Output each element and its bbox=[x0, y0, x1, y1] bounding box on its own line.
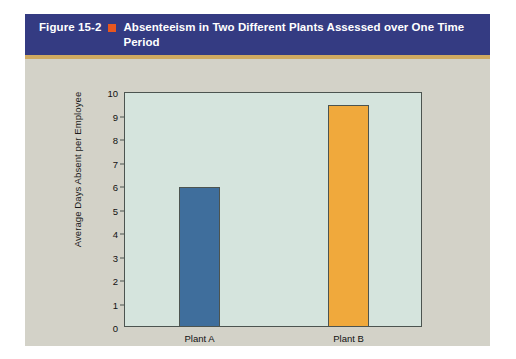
orange-square-icon bbox=[108, 24, 116, 32]
y-axis-tick-label: 10 bbox=[107, 88, 125, 99]
chart-container: Average Days Absent per Employee 1098765… bbox=[25, 59, 490, 346]
figure-header: Figure 15-2 Absenteeism in Two Different… bbox=[25, 14, 490, 55]
y-axis-tick-mark bbox=[120, 140, 125, 141]
y-axis-tick-mark bbox=[120, 257, 125, 258]
x-axis-category-label: Plant A bbox=[184, 333, 214, 344]
bar-plant-a bbox=[179, 187, 220, 326]
y-axis-tick-mark bbox=[120, 281, 125, 282]
y-axis-tick-mark bbox=[120, 116, 125, 117]
y-axis-tick-mark bbox=[120, 210, 125, 211]
y-axis-tick-mark bbox=[120, 234, 125, 235]
y-axis-tick-label: 0 bbox=[113, 323, 125, 334]
x-axis-category-label: Plant B bbox=[333, 333, 364, 344]
bar-plant-b bbox=[328, 105, 369, 326]
figure-number: Figure 15-2 bbox=[39, 20, 101, 35]
y-axis-title: Average Days Absent per Employee bbox=[72, 75, 83, 265]
figure-header-inner: Figure 15-2 Absenteeism in Two Different… bbox=[39, 20, 476, 50]
figure-title: Absenteeism in Two Different Plants Asse… bbox=[123, 20, 467, 50]
y-axis-tick-mark bbox=[120, 187, 125, 188]
y-axis-tick-mark bbox=[120, 163, 125, 164]
figure-block: Figure 15-2 Absenteeism in Two Different… bbox=[25, 14, 490, 346]
y-axis-tick-mark bbox=[120, 304, 125, 305]
plot-area: 109876543210Plant APlant B bbox=[124, 92, 422, 327]
